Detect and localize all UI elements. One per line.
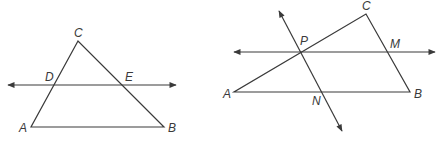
label-b-left: B bbox=[168, 121, 176, 135]
label-n: N bbox=[312, 94, 321, 108]
label-c-left: C bbox=[74, 26, 83, 40]
triangle-abc-left bbox=[31, 41, 164, 127]
label-p: P bbox=[300, 34, 308, 48]
label-m: M bbox=[390, 37, 400, 51]
label-b-right: B bbox=[414, 87, 422, 101]
triangle-abc-right bbox=[234, 14, 410, 92]
label-e: E bbox=[125, 70, 134, 84]
line-pn bbox=[279, 11, 342, 131]
right-figure: A B C P M N bbox=[222, 0, 435, 131]
label-c-right: C bbox=[362, 0, 371, 13]
label-d: D bbox=[45, 70, 54, 84]
geometry-diagram: A B C D E A B C P M N bbox=[0, 0, 439, 155]
left-figure: A B C D E bbox=[8, 26, 176, 135]
label-a-left: A bbox=[18, 121, 27, 135]
label-a-right: A bbox=[222, 87, 231, 101]
